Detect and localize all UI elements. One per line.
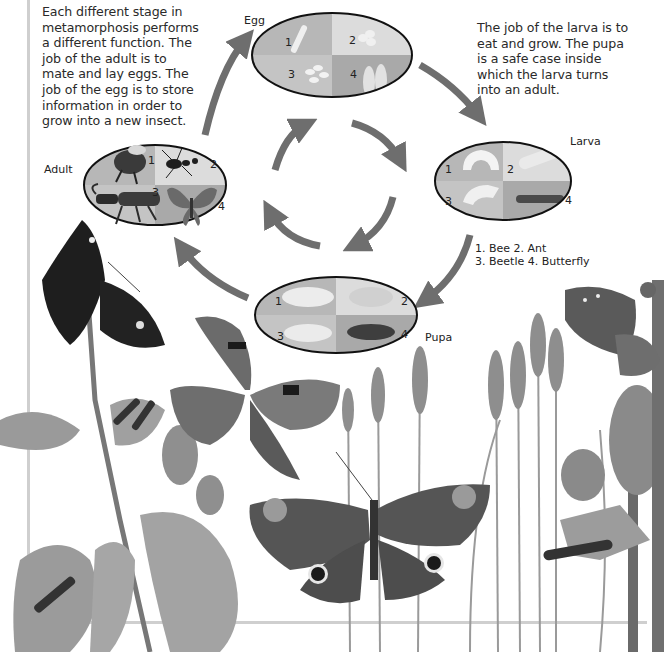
stage-adult: 1 2 3 4 xyxy=(82,142,228,232)
arrow-larva-to-pupa xyxy=(425,235,470,300)
stage-label-larva: Larva xyxy=(570,135,601,148)
legend: 1. Bee 2. Ant 3. Beetle 4. Butterfly xyxy=(475,242,590,268)
inner-arrow-1 xyxy=(275,125,305,170)
quadrant-number: 3 xyxy=(277,330,284,343)
stage-larva: 1 2 3 4 xyxy=(433,140,573,226)
legend-line-2: 3. Beetle 4. Butterfly xyxy=(475,255,590,268)
inner-arrow-3 xyxy=(355,197,393,245)
quadrant-number: 2 xyxy=(210,158,217,171)
quadrant-number: 2 xyxy=(349,34,356,47)
quadrant-number: 2 xyxy=(507,163,514,176)
legend-line-1: 1. Bee 2. Ant xyxy=(475,242,590,255)
stage-label-egg: Egg xyxy=(244,14,265,27)
quadrant-number: 4 xyxy=(401,328,408,341)
inner-arrow-4 xyxy=(270,212,320,246)
quadrant-number: 4 xyxy=(350,68,357,81)
stage-label-pupa: Pupa xyxy=(425,331,452,344)
quadrant-number: 1 xyxy=(285,36,292,49)
arrow-adult-to-egg xyxy=(205,40,245,135)
quadrant-number: 4 xyxy=(218,200,225,213)
stage-pupa: 1 2 3 4 xyxy=(253,275,419,359)
quadrant-number: 1 xyxy=(275,295,282,308)
stage-egg: 1 2 3 4 xyxy=(250,10,415,104)
quadrant-number: 1 xyxy=(445,163,452,176)
quadrant-number: 4 xyxy=(565,194,572,207)
quadrant-number: 3 xyxy=(445,195,452,208)
stage-label-adult: Adult xyxy=(44,163,73,176)
inner-arrow-2 xyxy=(352,123,400,160)
quadrant-number: 3 xyxy=(152,186,159,199)
arrow-pupa-to-adult xyxy=(182,248,248,298)
quadrant-number: 2 xyxy=(401,295,408,308)
quadrant-number: 1 xyxy=(148,154,155,167)
quadrant-number: 3 xyxy=(288,68,295,81)
arrow-egg-to-larva xyxy=(420,65,478,115)
